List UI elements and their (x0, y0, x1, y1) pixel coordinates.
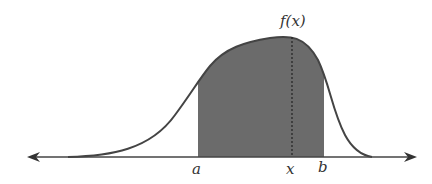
integral-diagram: f(x) a x b (0, 0, 432, 184)
diagram-canvas (0, 0, 432, 184)
label-x: x (286, 162, 294, 177)
label-fx: f(x) (280, 14, 306, 29)
label-a: a (192, 162, 201, 177)
shaded-area (68, 37, 372, 157)
label-b: b (318, 160, 328, 175)
